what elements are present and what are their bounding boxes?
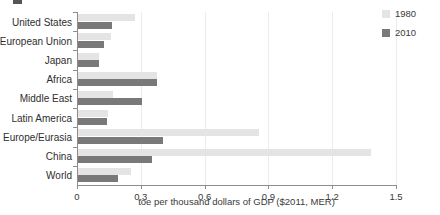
category-label: United States: [12, 16, 72, 27]
bar-2010: [78, 41, 104, 48]
x-tick: [77, 185, 78, 189]
y-tick: [73, 31, 77, 32]
x-tick: [332, 185, 333, 189]
bar-2010: [78, 22, 112, 29]
category-label: E. Europe/Eurasia: [0, 131, 72, 142]
x-tick: [268, 185, 269, 189]
bar-2010: [78, 79, 157, 86]
bar-2010: [78, 60, 99, 67]
bar-1980: [78, 72, 157, 79]
x-axis-line: [77, 185, 396, 186]
bar-group: Africa: [78, 70, 396, 89]
bar-group: United States: [78, 12, 396, 31]
bar-1980: [78, 33, 111, 40]
category-label: Africa: [46, 74, 72, 85]
x-axis-title: toe per thousand dollars of GDP ($2011, …: [77, 196, 396, 207]
bar-2010: [78, 175, 118, 182]
bar-1980: [78, 149, 371, 156]
plot-area: 00.30.60.91.21.5 United StatesEuropean U…: [77, 12, 396, 185]
x-tick: [141, 185, 142, 189]
bar-2010: [78, 137, 163, 144]
bar-1980: [78, 110, 108, 117]
y-tick: [73, 50, 77, 51]
bar-1980: [78, 14, 135, 21]
cropped-marker-artifact: [13, 0, 22, 4]
bar-group: Latin America: [78, 108, 396, 127]
bar-chart: 00.30.60.91.21.5 United StatesEuropean U…: [0, 0, 440, 215]
category-label: Japan: [45, 55, 72, 66]
bar-group: E. Europe/Eurasia: [78, 127, 396, 146]
legend-label: 1980: [395, 8, 416, 19]
legend-swatch-icon: [382, 10, 390, 18]
bar-group: Middle East: [78, 89, 396, 108]
y-tick: [73, 89, 77, 90]
legend-item: 1980: [382, 8, 416, 19]
category-label: Middle East: [20, 93, 72, 104]
x-tick: [396, 185, 397, 189]
bar-group: World: [78, 166, 396, 185]
y-tick: [73, 127, 77, 128]
x-tick: [205, 185, 206, 189]
bar-group: Japan: [78, 50, 396, 69]
chart-legend: 19802010: [382, 8, 416, 46]
bar-group: China: [78, 147, 396, 166]
bar-1980: [78, 168, 131, 175]
legend-item: 2010: [382, 27, 416, 38]
y-tick: [73, 70, 77, 71]
bar-2010: [78, 98, 142, 105]
category-label: Latin America: [11, 112, 72, 123]
bar-2010: [78, 156, 152, 163]
bar-2010: [78, 118, 107, 125]
legend-label: 2010: [395, 27, 416, 38]
category-label: China: [46, 151, 72, 162]
bar-1980: [78, 129, 259, 136]
category-label: European Union: [0, 35, 72, 46]
y-tick: [73, 147, 77, 148]
y-tick: [73, 12, 77, 13]
y-tick: [73, 108, 77, 109]
y-tick: [73, 166, 77, 167]
bar-group: European Union: [78, 31, 396, 50]
category-label: World: [46, 170, 72, 181]
legend-swatch-icon: [382, 29, 390, 37]
bar-1980: [78, 53, 99, 60]
bar-1980: [78, 91, 113, 98]
